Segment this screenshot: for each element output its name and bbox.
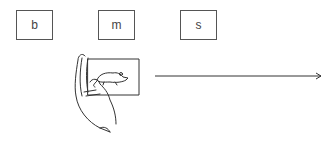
arrow-right-icon bbox=[155, 73, 321, 79]
hand-holding-mouse-card-icon bbox=[75, 54, 139, 132]
diagram-canvas bbox=[0, 0, 334, 147]
